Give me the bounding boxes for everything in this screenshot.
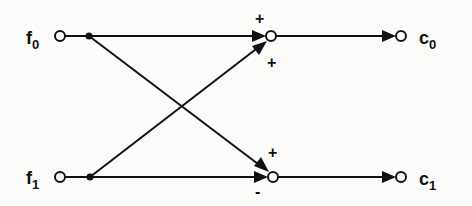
input-label-f0: f0 xyxy=(26,28,39,52)
arrow-f0-sum1 xyxy=(254,157,269,172)
butterfly-diagram: f0 f1 + + + - c0 c1 xyxy=(0,0,472,206)
sign-sum1-from-f1: - xyxy=(255,183,260,200)
output-node-c0 xyxy=(396,31,406,41)
arrow-f0-sum0 xyxy=(252,30,266,42)
arrow-sum0-c0 xyxy=(382,30,396,42)
input-node-f0 xyxy=(55,31,65,41)
sign-sum1-from-f0: + xyxy=(268,144,277,161)
edge-f1-sum0 xyxy=(90,46,260,177)
arrow-sum1-c1 xyxy=(382,171,396,183)
edge-f0-sum1 xyxy=(89,36,262,167)
sign-sum0-from-f0: + xyxy=(255,10,264,27)
input-label-f1: f1 xyxy=(26,168,39,192)
summing-node-c1 xyxy=(268,172,278,182)
output-label-c0: c0 xyxy=(419,28,436,52)
summing-node-c0 xyxy=(266,31,276,41)
arrow-f1-sum1 xyxy=(254,171,268,183)
arrow-f1-sum0 xyxy=(252,41,267,55)
input-node-f1 xyxy=(55,172,65,182)
sign-sum0-from-f1: + xyxy=(267,54,276,71)
output-node-c1 xyxy=(396,172,406,182)
output-label-c1: c1 xyxy=(419,169,436,193)
